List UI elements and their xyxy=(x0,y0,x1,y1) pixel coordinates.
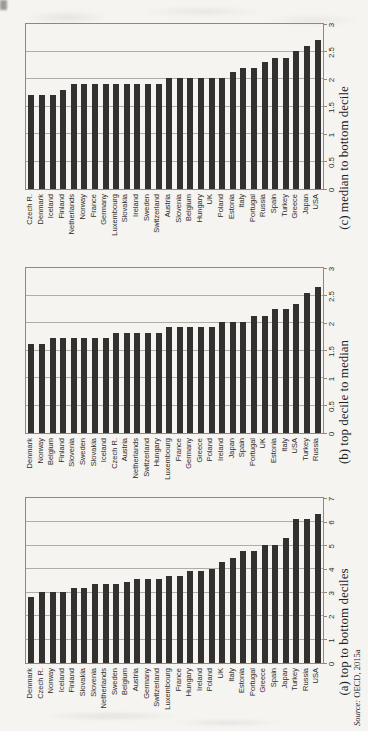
category-label: Austria xyxy=(131,668,142,718)
bar-russia xyxy=(262,63,268,190)
bar-hungary xyxy=(198,78,204,189)
chart-panel-b: (b) top decile to median 00.511.522.53De… xyxy=(0,244,368,488)
bar-usa xyxy=(315,515,321,664)
category-label: UK xyxy=(216,668,227,718)
category-label: Portugal xyxy=(248,194,259,244)
category-label: Iceland xyxy=(46,194,57,244)
bar-turkey xyxy=(293,519,299,663)
category-label: Norway xyxy=(78,194,89,244)
bar-belgium xyxy=(187,78,193,189)
bar-slovenia xyxy=(92,584,98,663)
bar-france xyxy=(177,327,183,433)
bar-poland xyxy=(209,569,215,663)
plot-area-a xyxy=(25,497,324,664)
category-label: Czech R. xyxy=(25,194,36,244)
gridline xyxy=(26,295,323,296)
category-label: Spain xyxy=(269,668,280,718)
bar-greece xyxy=(293,52,299,190)
category-label: Estonia xyxy=(237,668,248,718)
category-label: Greece xyxy=(290,194,301,244)
bar-belgium xyxy=(50,338,56,433)
category-label: Iceland xyxy=(57,668,68,718)
bar-poland xyxy=(209,327,215,433)
axis-tick-label: 0.5 xyxy=(327,148,336,178)
gridline xyxy=(26,79,323,80)
category-label: Russia xyxy=(301,668,312,718)
bar-italy xyxy=(283,309,289,433)
bar-sweden xyxy=(113,584,119,663)
category-label: Germany xyxy=(99,194,110,244)
bar-uk xyxy=(262,316,268,433)
bar-ireland xyxy=(134,85,140,190)
bar-italy xyxy=(240,68,246,189)
axis-tick-label: 1 xyxy=(327,364,336,394)
bar-norway xyxy=(50,592,56,663)
category-label: Czech R. xyxy=(36,668,47,718)
category-label: Austria xyxy=(163,194,174,244)
plot-area-c xyxy=(25,23,324,190)
bar-luxembourg xyxy=(113,85,119,190)
category-label: Turkey xyxy=(290,668,301,718)
bar-spain xyxy=(240,322,246,433)
bar-turkey xyxy=(304,293,310,433)
source-note-prefix: Source: xyxy=(352,700,362,726)
category-label: UK xyxy=(205,194,216,244)
bar-portugal xyxy=(251,316,257,433)
category-label: Finland xyxy=(57,194,68,244)
bar-russia xyxy=(315,287,321,433)
bar-belgium xyxy=(124,582,130,663)
axis-tick-label: 3 xyxy=(327,10,336,40)
category-label: Spain xyxy=(269,194,280,244)
bar-switzerland xyxy=(156,579,162,663)
chart-band-c: (c) median to bottom decile 00.511.522.5… xyxy=(0,0,368,244)
bar-uk xyxy=(209,78,215,189)
category-label: Poland xyxy=(216,194,227,244)
chart-band-b: (b) top decile to median 00.511.522.53De… xyxy=(0,244,368,488)
category-label: Finland xyxy=(67,668,78,718)
axis-tick-label: 0.5 xyxy=(327,392,336,422)
bar-austria xyxy=(166,78,172,189)
bar-portugal xyxy=(251,551,257,663)
category-label: Slovenia xyxy=(174,194,185,244)
axis-tick-label: 1.5 xyxy=(327,337,336,367)
bar-spain xyxy=(272,58,278,189)
bar-germany xyxy=(145,579,151,663)
bar-austria xyxy=(124,333,130,433)
scanned-figure-page: (c) median to bottom decile 00.511.522.5… xyxy=(0,0,368,731)
chart-panel-c: (c) median to bottom decile 00.511.522.5… xyxy=(0,0,368,244)
bar-sweden xyxy=(81,338,87,433)
bar-estonia xyxy=(272,309,278,433)
category-label: Denmark xyxy=(25,668,36,718)
bar-ireland xyxy=(198,571,204,663)
axis-tick-label: 2 xyxy=(327,309,336,339)
bar-turkey xyxy=(283,58,289,189)
chart-panel-a: (a) top to bottom deciles Source: OECD, … xyxy=(0,474,368,718)
bar-slovakia xyxy=(81,588,87,663)
bar-france xyxy=(177,576,183,663)
bar-norway xyxy=(39,344,45,433)
bar-slovenia xyxy=(177,78,183,189)
gridline xyxy=(26,51,323,52)
bar-japan xyxy=(304,46,310,189)
chart-band-a: (a) top to bottom deciles Source: OECD, … xyxy=(0,474,368,718)
category-label: Greece xyxy=(258,668,269,718)
bar-japan xyxy=(283,538,289,663)
bar-spain xyxy=(272,545,278,663)
bar-slovenia xyxy=(71,338,77,433)
gridline xyxy=(26,521,323,522)
gridline xyxy=(26,545,323,546)
source-note-text: OECD, 2015a xyxy=(352,650,362,700)
category-label: Belgium xyxy=(120,668,131,718)
category-label: Hungary xyxy=(195,194,206,244)
gridline xyxy=(26,568,323,569)
axis-tick-label: 2 xyxy=(327,65,336,95)
bar-denmark xyxy=(28,597,34,663)
bar-iceland xyxy=(60,592,66,663)
category-label: Ireland xyxy=(195,668,206,718)
axis-tick-label: 1.5 xyxy=(327,93,336,123)
bar-switzerland xyxy=(145,333,151,433)
bar-estonia xyxy=(230,72,236,189)
bar-russia xyxy=(304,519,310,663)
category-label: Ireland xyxy=(131,194,142,244)
bar-germany xyxy=(103,85,109,190)
